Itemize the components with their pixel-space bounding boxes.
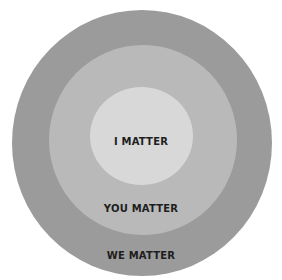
label-you-matter: YOU MATTER <box>0 203 282 214</box>
label-we-matter: WE MATTER <box>0 250 282 261</box>
label-i-matter: I MATTER <box>0 136 282 147</box>
